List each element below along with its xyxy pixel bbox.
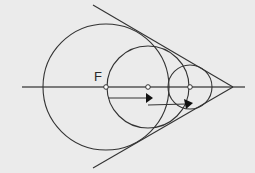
focus-label: F bbox=[94, 69, 102, 84]
geometry-diagram: F bbox=[0, 0, 255, 173]
medium-center-point bbox=[146, 85, 151, 90]
focus-point-F bbox=[104, 85, 109, 90]
small-center-point bbox=[188, 85, 193, 90]
